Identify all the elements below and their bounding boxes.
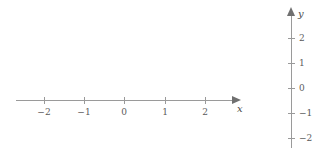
y-axis-label: y <box>298 9 304 19</box>
x-tick-mark <box>205 97 206 104</box>
coordinate-axes-figure: −2 −1 0 1 2 x 2 1 0 −1 −2 y <box>0 0 332 151</box>
y-tick-mark <box>288 38 295 39</box>
x-tick-mark <box>84 97 85 104</box>
y-tick-label: 2 <box>299 33 323 43</box>
x-tick-label: 1 <box>153 107 177 117</box>
x-tick-label: 2 <box>193 107 217 117</box>
y-axis-line <box>291 14 292 148</box>
x-tick-label: −2 <box>32 107 56 117</box>
y-tick-label: −1 <box>299 108 323 118</box>
y-tick-mark <box>288 138 295 139</box>
y-tick-mark <box>288 63 295 64</box>
x-tick-mark <box>44 97 45 104</box>
x-tick-mark <box>124 97 125 104</box>
y-tick-label: −2 <box>299 133 323 143</box>
x-tick-mark <box>165 97 166 104</box>
y-tick-label: 0 <box>299 83 323 93</box>
y-tick-label: 1 <box>299 58 323 68</box>
y-tick-mark <box>288 113 295 114</box>
y-tick-mark <box>288 88 295 89</box>
x-axis-label: x <box>237 104 243 114</box>
x-tick-label: −1 <box>72 107 96 117</box>
y-axis-arrowhead-icon <box>287 7 295 16</box>
x-tick-label: 0 <box>112 107 136 117</box>
